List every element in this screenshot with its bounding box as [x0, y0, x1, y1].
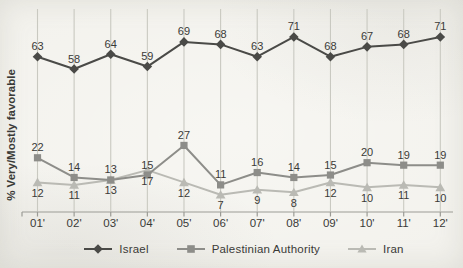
israel-data-label: 69	[178, 25, 190, 37]
palestinian-authority-marker	[327, 171, 334, 178]
palestinian-authority-marker	[34, 154, 41, 161]
iran-data-label: 11	[398, 189, 409, 201]
palestinian-authority-marker	[217, 181, 224, 188]
palestinian-authority-data-label: 14	[68, 161, 80, 173]
israel-line	[38, 37, 441, 69]
y-axis-title: % Very/Mostly favorable	[5, 69, 17, 201]
palestinian-authority-data-label: 15	[324, 159, 336, 171]
israel-marker	[33, 52, 43, 62]
x-tick-label-10: 10'	[360, 217, 375, 229]
iran-data-label: 17	[141, 175, 153, 187]
israel-marker	[252, 52, 262, 62]
israel-diamond-marker-icon	[83, 243, 113, 255]
israel-data-label: 58	[68, 53, 80, 65]
x-tick-label-05: 05'	[176, 217, 191, 229]
favorability-line-chart: 01'02'03'04'05'06'07'08'09'10'11'12'% Ve…	[0, 0, 463, 268]
x-tick-label-03: 03'	[103, 217, 118, 229]
palestinian-authority-marker	[437, 162, 444, 169]
iran-data-label: 13	[105, 184, 117, 196]
palestinian-authority-line	[38, 145, 441, 184]
palestinian-authority-marker	[107, 176, 114, 183]
palestinian-authority-data-label: 11	[215, 168, 226, 180]
palestinian-authority-data-label: 14	[288, 161, 300, 173]
israel-data-label: 59	[141, 50, 153, 62]
x-tick-label-12: 12'	[433, 217, 448, 229]
israel-data-label: 64	[105, 38, 117, 50]
legend-item-palestinian-authority: Palestinian Authority	[176, 243, 320, 255]
x-tick-label-09: 09'	[323, 217, 338, 229]
palestinian-authority-data-label: 22	[31, 141, 43, 153]
iran-data-label: 10	[361, 192, 373, 204]
israel-data-label: 71	[288, 20, 300, 32]
legend-item-iran: Iran	[347, 243, 404, 255]
chart-legend: Israel Palestinian Authority Iran	[0, 243, 463, 255]
iran-data-label: 12	[178, 187, 190, 199]
palestinian-authority-marker	[290, 174, 297, 181]
palestinian-authority-marker	[363, 159, 370, 166]
israel-marker	[326, 52, 336, 62]
israel-data-label: 71	[434, 20, 446, 32]
palestinian-authority-square-marker-icon	[176, 243, 206, 255]
israel-marker	[69, 64, 79, 74]
palestinian-authority-data-label: 16	[251, 156, 263, 168]
israel-marker	[216, 40, 226, 50]
palestinian-authority-data-label: 13	[105, 163, 117, 175]
israel-data-label: 68	[324, 40, 336, 52]
palestinian-authority-marker	[400, 162, 407, 169]
israel-data-label: 63	[31, 40, 43, 52]
palestinian-authority-data-label: 19	[434, 149, 446, 161]
x-tick-label-04: 04'	[140, 217, 155, 229]
iran-triangle-marker-icon	[347, 243, 377, 255]
iran-data-label: 10	[434, 192, 446, 204]
legend-label-israel: Israel	[119, 243, 148, 255]
legend-label-iran: Iran	[383, 243, 404, 255]
israel-marker	[399, 40, 409, 50]
x-tick-label-07: 07'	[250, 217, 265, 229]
israel-marker	[106, 49, 116, 59]
palestinian-authority-marker	[180, 142, 187, 149]
palestinian-authority-data-label: 15	[141, 159, 153, 171]
x-tick-label-02: 02'	[67, 217, 82, 229]
legend-label-palestinian-authority: Palestinian Authority	[212, 243, 320, 255]
israel-marker	[289, 32, 299, 42]
israel-data-label: 68	[398, 28, 410, 40]
x-tick-label-08: 08'	[286, 217, 301, 229]
legend-item-israel: Israel	[83, 243, 148, 255]
x-tick-label-11: 11'	[397, 217, 411, 229]
palestinian-authority-data-label: 19	[398, 149, 410, 161]
israel-data-label: 68	[214, 28, 226, 40]
israel-data-label: 63	[251, 40, 263, 52]
palestinian-authority-data-label: 20	[361, 146, 373, 158]
palestinian-authority-data-label: 27	[178, 129, 190, 141]
x-tick-label-01: 01'	[30, 217, 45, 229]
palestinian-authority-marker	[71, 174, 78, 181]
iran-data-label: 9	[254, 194, 260, 206]
iran-data-label: 11	[68, 189, 79, 201]
palestinian-authority-marker	[254, 169, 261, 176]
iran-line	[38, 170, 441, 195]
iran-data-label: 8	[291, 197, 297, 209]
iran-data-label: 7	[218, 199, 224, 211]
scanned-favorability-chart-page: 01'02'03'04'05'06'07'08'09'10'11'12'% Ve…	[0, 0, 463, 268]
israel-data-label: 67	[361, 30, 373, 42]
x-tick-label-06: 06'	[213, 217, 228, 229]
israel-marker	[436, 32, 446, 42]
iran-data-label: 12	[31, 187, 43, 199]
israel-marker	[362, 42, 372, 52]
iran-data-label: 12	[324, 187, 336, 199]
